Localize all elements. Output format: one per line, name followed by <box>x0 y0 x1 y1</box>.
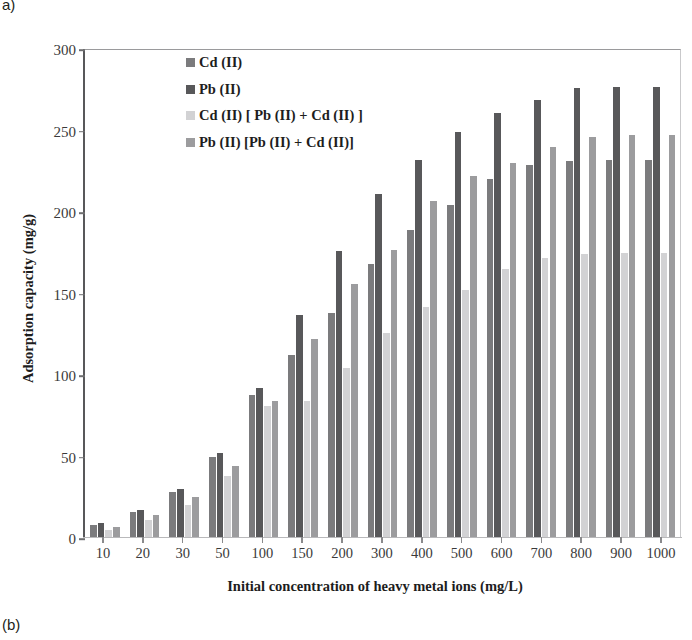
bar[interactable] <box>510 163 517 538</box>
bar-chart-figure: Adsorption capacity (mg/g) 0501001502002… <box>0 0 692 612</box>
bar[interactable] <box>336 251 343 538</box>
bar[interactable] <box>192 497 199 538</box>
legend-swatch-icon <box>186 85 195 94</box>
bar-series-container <box>85 50 680 538</box>
legend-item-label: Pb (II) <box>199 81 241 98</box>
x-axis-tick-mark <box>262 537 264 543</box>
bar[interactable] <box>185 505 192 538</box>
bar[interactable] <box>589 137 596 538</box>
bar[interactable] <box>375 194 382 538</box>
x-axis-tick-mark-cell <box>641 537 681 543</box>
bar[interactable] <box>661 253 668 538</box>
bar[interactable] <box>256 388 263 538</box>
bar[interactable] <box>311 339 318 538</box>
bar[interactable] <box>581 254 588 538</box>
x-axis-tick-label: 50 <box>203 545 243 562</box>
x-axis-tick-mark-cell <box>322 537 362 543</box>
bar[interactable] <box>645 160 652 538</box>
bar[interactable] <box>550 147 557 538</box>
legend-item[interactable]: Pb (II) <box>186 81 363 98</box>
bar[interactable] <box>169 492 176 538</box>
bar[interactable] <box>423 307 430 538</box>
bar[interactable] <box>462 290 469 538</box>
legend-item[interactable]: Cd (II) <box>186 54 363 71</box>
plot-area: 050100150200250300 <box>83 49 681 538</box>
y-axis-tick-label: 100 <box>24 368 76 385</box>
bar[interactable] <box>145 520 152 538</box>
x-axis-tick-mark-cell <box>482 537 522 543</box>
x-axis-tick-label: 100 <box>242 545 282 562</box>
bar[interactable] <box>470 176 477 538</box>
x-axis-tick-label: 500 <box>442 545 482 562</box>
y-axis-tick-label: 150 <box>24 286 76 303</box>
x-axis-tick-mark-cell <box>83 537 123 543</box>
bar[interactable] <box>224 476 231 538</box>
bar[interactable] <box>487 179 494 538</box>
bar[interactable] <box>526 165 533 538</box>
bar-group <box>85 50 125 538</box>
x-axis-title: Initial concentration of heavy metal ion… <box>70 578 680 595</box>
bar[interactable] <box>407 230 414 538</box>
bar[interactable] <box>264 406 271 538</box>
bar[interactable] <box>574 88 581 538</box>
x-axis-tick-mark <box>222 537 224 543</box>
chart-legend: Cd (II)Pb (II)Cd (II) [ Pb (II) + Cd (II… <box>186 54 363 151</box>
bar-group <box>561 50 601 538</box>
x-axis-tick-label: 20 <box>123 545 163 562</box>
bar[interactable] <box>534 100 541 538</box>
x-axis-tick-mark-cell <box>561 537 601 543</box>
x-axis-tick-mark-cell <box>402 537 442 543</box>
bar[interactable] <box>98 523 105 538</box>
bar[interactable] <box>272 401 279 538</box>
bar[interactable] <box>328 313 335 538</box>
y-axis-tick-label: 300 <box>24 42 76 59</box>
bar[interactable] <box>368 264 375 538</box>
bar[interactable] <box>153 515 160 538</box>
bar[interactable] <box>249 395 256 538</box>
bar[interactable] <box>343 368 350 538</box>
bar[interactable] <box>455 132 462 538</box>
bar[interactable] <box>447 205 454 538</box>
bar[interactable] <box>209 457 216 539</box>
legend-item-label: Cd (II) [ Pb (II) + Cd (II) ] <box>199 107 363 124</box>
bar[interactable] <box>391 250 398 539</box>
bar[interactable] <box>566 161 573 538</box>
bar[interactable] <box>542 258 549 538</box>
x-axis-tick-mark <box>341 537 343 543</box>
legend-item[interactable]: Cd (II) [ Pb (II) + Cd (II) ] <box>186 107 363 124</box>
bar[interactable] <box>351 284 358 538</box>
x-axis-tick-label: 600 <box>482 545 522 562</box>
bar[interactable] <box>383 333 390 538</box>
x-axis-tick-marks <box>83 537 681 543</box>
bar[interactable] <box>137 510 144 538</box>
x-axis-tick-mark <box>142 537 144 543</box>
x-axis-tick-mark-cell <box>601 537 641 543</box>
legend-item[interactable]: Pb (II) [Pb (II) + Cd (II)] <box>186 134 363 151</box>
bar[interactable] <box>296 315 303 538</box>
bar-group <box>442 50 482 538</box>
bar[interactable] <box>621 253 628 538</box>
bar[interactable] <box>606 160 613 538</box>
x-axis-tick-mark-cell <box>123 537 163 543</box>
x-axis-tick-mark-cell <box>521 537 561 543</box>
bar[interactable] <box>130 512 137 538</box>
bar[interactable] <box>217 453 224 538</box>
bar[interactable] <box>415 160 422 538</box>
bar-group <box>363 50 403 538</box>
x-axis-tick-mark-cell <box>163 537 203 543</box>
bar[interactable] <box>430 201 437 538</box>
bar[interactable] <box>177 489 184 538</box>
bar[interactable] <box>494 113 501 538</box>
bar[interactable] <box>613 87 620 539</box>
panel-label-b: (b) <box>2 616 20 633</box>
bar[interactable] <box>669 135 676 538</box>
bar[interactable] <box>653 87 660 539</box>
bar[interactable] <box>629 135 636 538</box>
bar[interactable] <box>288 355 295 538</box>
bar[interactable] <box>304 401 311 538</box>
x-axis-tick-label: 300 <box>362 545 402 562</box>
bar[interactable] <box>232 466 239 538</box>
y-axis-tick-label: 0 <box>24 531 76 548</box>
x-axis-tick-label: 700 <box>521 545 561 562</box>
bar[interactable] <box>502 269 509 538</box>
